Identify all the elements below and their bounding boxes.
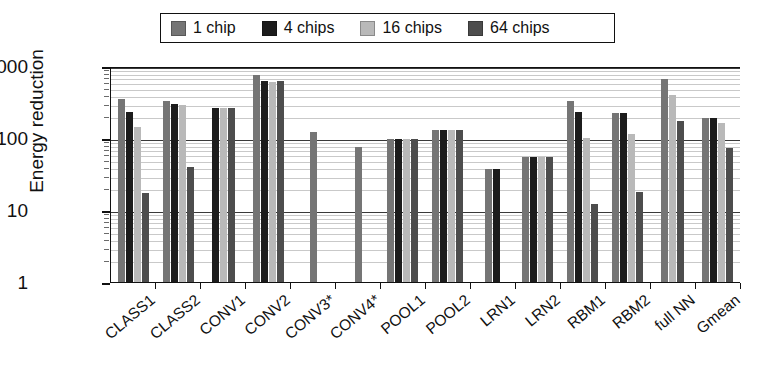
bar	[269, 82, 276, 282]
bar	[355, 147, 362, 282]
bar	[179, 105, 186, 282]
bar	[575, 112, 582, 282]
bar-group	[425, 68, 470, 282]
legend-label-1-chip: 1 chip	[193, 20, 236, 36]
x-tick-mark	[335, 283, 336, 289]
legend-item-64-chips: 64 chips	[468, 20, 550, 36]
y-minor-tick	[104, 105, 109, 106]
bar	[726, 148, 733, 282]
bar	[677, 121, 684, 282]
bar-group	[336, 68, 381, 282]
y-minor-tick	[104, 78, 109, 79]
x-tick-mark	[695, 283, 696, 289]
y-tick-mark	[102, 139, 110, 141]
x-tick-mark	[650, 283, 651, 289]
bar-group	[291, 68, 336, 282]
legend-label-64-chips: 64 chips	[490, 20, 550, 36]
y-minor-tick	[104, 117, 109, 118]
y-tick-label: 1	[0, 273, 28, 292]
legend-swatch-16-chips	[360, 21, 375, 36]
y-minor-tick	[104, 89, 109, 90]
bar	[710, 118, 717, 282]
bar-group	[560, 68, 605, 282]
bar	[387, 139, 394, 282]
bar	[277, 81, 284, 282]
bar	[591, 204, 598, 282]
x-tick-mark	[560, 283, 561, 289]
chart-legend: 1 chip 4 chips 16 chips 64 chips	[160, 13, 615, 43]
bar	[636, 192, 643, 282]
bar	[220, 108, 227, 282]
y-minor-tick	[104, 249, 109, 250]
y-tick-label: 10	[0, 201, 28, 220]
x-tick-mark	[425, 283, 426, 289]
legend-item-16-chips: 16 chips	[360, 20, 442, 36]
bar	[395, 139, 402, 282]
bar	[432, 130, 439, 282]
y-minor-tick	[104, 240, 109, 241]
y-minor-tick	[104, 146, 109, 147]
bar-group	[156, 68, 201, 282]
bar	[187, 167, 194, 282]
bar	[456, 130, 463, 282]
bar	[661, 79, 668, 282]
bar	[522, 157, 529, 282]
y-minor-tick	[104, 233, 109, 234]
bar	[261, 81, 268, 282]
bar	[126, 112, 133, 282]
y-minor-tick	[104, 142, 109, 143]
bar	[212, 108, 219, 282]
bar	[448, 130, 455, 282]
x-tick-mark	[200, 283, 201, 289]
x-tick-mark	[290, 283, 291, 289]
y-minor-tick	[104, 83, 109, 84]
bar-group	[695, 68, 740, 282]
y-minor-tick	[104, 74, 109, 75]
y-minor-tick	[104, 70, 109, 71]
bar	[485, 169, 492, 282]
legend-swatch-1-chip	[171, 21, 186, 36]
bar	[228, 108, 235, 282]
x-axis: CLASS1CLASS2CONV1CONV2CONV3*CONV4*POOL1P…	[110, 283, 740, 383]
y-axis-title: Energy reduction	[26, 6, 48, 236]
bar-group	[201, 68, 246, 282]
y-minor-tick	[104, 161, 109, 162]
bar-groups	[111, 68, 740, 282]
y-minor-tick	[104, 214, 109, 215]
y-minor-tick	[104, 261, 109, 262]
bar-group	[470, 68, 515, 282]
x-tick-mark	[380, 283, 381, 289]
bar	[253, 75, 260, 282]
x-tick-mark	[605, 283, 606, 289]
bar	[118, 99, 125, 282]
y-minor-tick	[104, 150, 109, 151]
bar	[669, 95, 676, 282]
bar	[142, 193, 149, 282]
x-tick-mark	[245, 283, 246, 289]
legend-item-1-chip: 1 chip	[171, 20, 236, 36]
legend-item-4-chips: 4 chips	[262, 20, 335, 36]
x-tick-mark	[515, 283, 516, 289]
y-minor-tick	[104, 168, 109, 169]
bar	[403, 139, 410, 282]
bar-group	[650, 68, 695, 282]
bar	[493, 169, 500, 282]
plot-area	[110, 67, 740, 283]
y-tick-mark	[102, 211, 110, 213]
bar	[134, 127, 141, 282]
y-tick-mark	[102, 283, 110, 285]
bar	[171, 104, 178, 282]
legend-label-4-chips: 4 chips	[284, 20, 335, 36]
bar	[546, 157, 553, 282]
bar	[583, 138, 590, 282]
bar	[718, 123, 725, 282]
bar	[163, 101, 170, 282]
bar	[310, 132, 317, 282]
legend-label-16-chips: 16 chips	[382, 20, 442, 36]
bar	[530, 157, 537, 282]
x-tick-mark	[155, 283, 156, 289]
y-minor-tick	[104, 189, 109, 190]
y-minor-tick	[104, 96, 109, 97]
bar-group	[111, 68, 156, 282]
legend-swatch-64-chips	[468, 21, 483, 36]
